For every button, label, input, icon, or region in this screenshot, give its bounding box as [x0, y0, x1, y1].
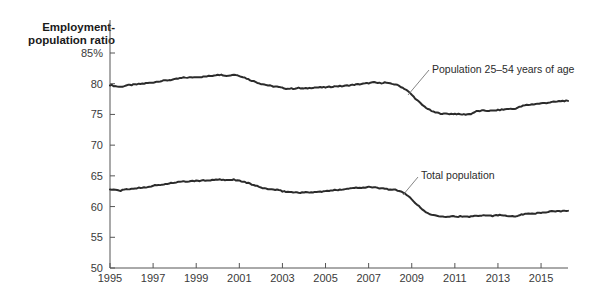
- y-tick-label: 60: [91, 201, 103, 213]
- x-tick-label: 2013: [486, 272, 510, 284]
- chart-title: Employment- population ratio: [28, 21, 115, 46]
- axis-lines: [110, 20, 568, 268]
- chart-title-line-1: Employment-: [42, 21, 115, 33]
- chart-canvas: Employment- population ratio 85%80757065…: [0, 0, 590, 302]
- series-line: [110, 75, 568, 115]
- prime-age-label: Population 25–54 years of age: [432, 63, 575, 75]
- x-tick-label: 1997: [141, 272, 165, 284]
- series-line: [110, 179, 568, 217]
- y-tick-label: 80: [91, 78, 103, 90]
- x-tick-label: 2011: [443, 272, 467, 284]
- chart-title-line-2: population ratio: [28, 34, 115, 46]
- y-tick-label: 85%: [81, 47, 103, 59]
- prime-age-label-leader-line: [408, 70, 429, 95]
- data-series-group: [110, 75, 568, 217]
- x-tick-label: 1995: [98, 272, 122, 284]
- y-tick-label: 55: [91, 231, 103, 243]
- x-tick-label: 2015: [529, 272, 553, 284]
- x-tick-label: 1999: [184, 272, 208, 284]
- x-tick-label: 2003: [270, 272, 294, 284]
- total-population-label-leader-line: [403, 177, 418, 195]
- total-population-label: Total population: [421, 169, 495, 181]
- x-axis-ticks: 1995199719992001200320052007200920112013…: [98, 263, 554, 284]
- x-tick-label: 2009: [399, 272, 423, 284]
- y-tick-label: 70: [91, 139, 103, 151]
- y-tick-label: 65: [91, 170, 103, 182]
- x-tick-label: 2005: [313, 272, 337, 284]
- y-tick-label: 75: [91, 108, 103, 120]
- employment-population-ratio-chart: Employment- population ratio 85%80757065…: [0, 0, 590, 302]
- x-tick-label: 2001: [227, 272, 251, 284]
- annotations-group: Population 25–54 years of ageTotal popul…: [403, 63, 575, 195]
- x-tick-label: 2007: [356, 272, 380, 284]
